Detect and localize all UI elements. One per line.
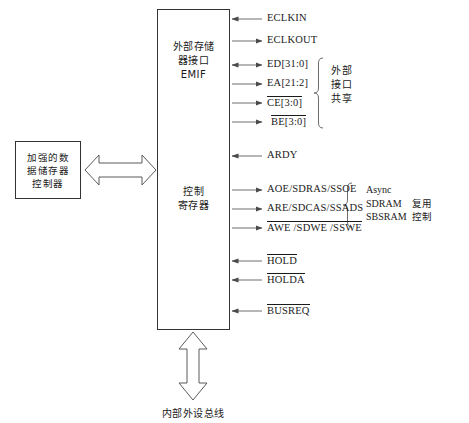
peripheral-bus-label: 内部外设总线 (133, 403, 253, 421)
diagram-canvas: 加强的数 据储存器 控制器 外部存储 器接口 EMIF 控制 寄存器 (0, 0, 469, 423)
signal-label-be: BE[3:0] (271, 115, 306, 127)
mux-control-cn-line-2: 控制 (412, 210, 433, 224)
signal-label-aoe: AOE/SDRAS/SSOE (267, 183, 357, 194)
bidirectional-arrow-memctrl-emif (85, 155, 156, 185)
signal-label-ce: CE[3:0] (267, 96, 302, 108)
signal-label-ed: ED[31:0] (267, 58, 308, 69)
mux-control-eng-line-2: SDRAM (366, 197, 407, 211)
mux-control-chinese: 复用 控制 (412, 183, 433, 224)
signal-label-are: ARE/SDCAS/SSADS (267, 202, 363, 213)
bidirectional-arrow-peripheral-bus (179, 332, 207, 400)
mux-control-eng-line-1: Async (366, 183, 407, 197)
signal-label-hold: HOLD (267, 254, 297, 266)
brace-shared-interface (314, 58, 323, 128)
signal-label-ea: EA[21:2] (267, 77, 308, 88)
shared-interface-line-1: 外部 (331, 64, 352, 78)
signal-label-ardy: ARDY (267, 149, 298, 160)
signal-label-eclkout: ECLKOUT (267, 34, 317, 45)
signal-label-holda: HOLDA (267, 273, 305, 285)
signal-label-busreq: BUSREQ (267, 304, 310, 316)
shared-interface-line-2: 接口 (331, 78, 352, 92)
annotation-mux-control: Async SDRAM SBSRAM 复用 控制 (366, 183, 432, 224)
mux-control-english: Async SDRAM SBSRAM (366, 183, 407, 224)
mux-control-eng-line-3: SBSRAM (366, 210, 407, 224)
signal-label-eclkin: ECLKIN (267, 12, 307, 23)
annotation-shared-interface: 外部 接口 共享 (331, 64, 352, 106)
signal-label-awe: AWE /SDWE /SSWE (267, 221, 362, 233)
mux-control-cn-line-1: 复用 (412, 197, 433, 211)
shared-interface-line-3: 共享 (331, 92, 352, 106)
